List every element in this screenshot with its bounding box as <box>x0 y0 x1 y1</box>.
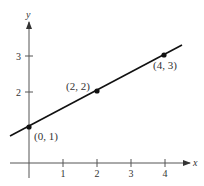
point-label-0-1: (0, 1) <box>34 130 58 143</box>
x-tick-4: 4 <box>163 168 168 179</box>
point-label-4-3: (4, 3) <box>153 59 177 72</box>
y-tick-2: 2 <box>16 87 21 98</box>
point-label-2-2: (2, 2) <box>66 80 90 93</box>
point-4-3 <box>161 52 166 57</box>
x-tick-1: 1 <box>61 168 66 179</box>
x-tick-3: 3 <box>129 168 134 179</box>
x-axis-label: x <box>192 157 198 168</box>
point-0-1 <box>26 124 31 129</box>
y-tick-3: 3 <box>16 51 21 62</box>
y-axis-label: y <box>25 9 31 20</box>
x-tick-2: 2 <box>95 168 100 179</box>
point-2-2 <box>94 88 99 93</box>
line-graph: 1 2 3 4 2 3 x y (0, 1) (2, 2) (4, 3) <box>0 0 204 186</box>
